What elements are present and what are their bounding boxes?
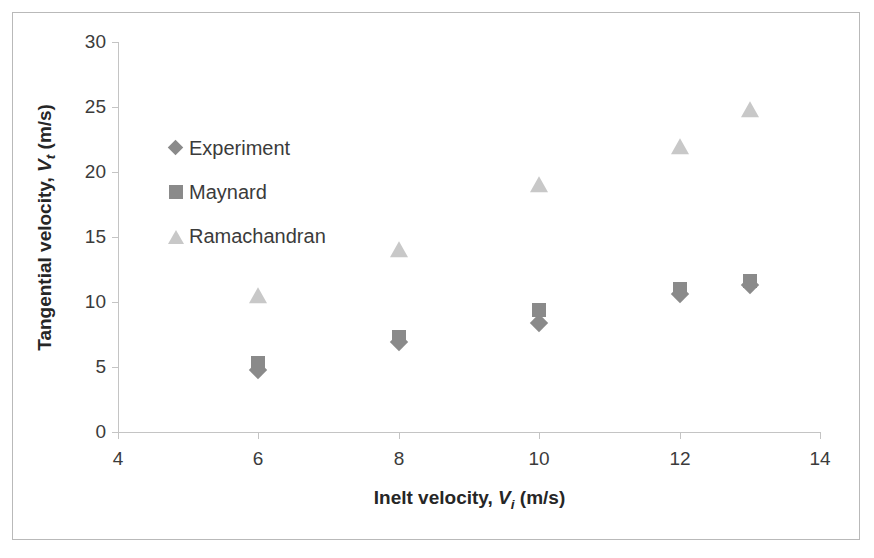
data-point-triangle [671,138,689,154]
y-axis-tick-label: 0 [60,422,106,441]
x-axis-tick [118,433,119,439]
y-axis-tick-label: 20 [60,162,106,181]
data-point-square [392,330,406,344]
x-axis-tick-label: 12 [657,449,703,468]
x-axis-tick-label: 10 [516,449,562,468]
data-point-square [673,282,687,296]
y-axis-title: Tangential velocity, Vt (m/s) [34,37,59,417]
y-axis-tick-label: 30 [60,32,106,51]
x-axis-line [118,432,821,433]
legend-label: Maynard [189,181,267,204]
diamond-icon [168,140,184,156]
y-axis-tick-label: 10 [60,292,106,311]
x-axis-tick-label: 6 [235,449,281,468]
data-point-square [251,356,265,370]
x-axis-tick [680,433,681,439]
data-point-diamond [390,333,408,351]
data-point-diamond [530,314,548,332]
chart-legend: ExperimentMaynardRamachandran [168,126,418,258]
y-axis-tick-label: 5 [60,357,106,376]
legend-item-experiment[interactable]: Experiment [168,126,418,170]
y-axis-tick-label: 15 [60,227,106,246]
x-axis-tick [820,433,821,439]
data-point-square [743,274,757,288]
data-point-triangle [249,287,267,303]
data-point-diamond [741,276,759,294]
legend-label: Ramachandran [189,225,326,248]
data-point-diamond [249,360,267,378]
data-point-square [532,303,546,317]
legend-item-maynard[interactable]: Maynard [168,170,418,214]
x-axis-tick-label: 8 [376,449,422,468]
legend-label: Experiment [189,137,290,160]
x-axis-tick-label: 14 [797,449,843,468]
x-axis-tick [258,433,259,439]
data-point-triangle [530,176,548,192]
data-point-diamond [670,285,688,303]
square-icon [168,184,184,200]
x-axis-tick [399,433,400,439]
y-axis-tick-label: 25 [60,97,106,116]
triangle-icon [168,228,184,244]
x-axis-tick-label: 4 [95,449,141,468]
scatter-chart: 051015202530 468101214 Tangential veloci… [0,0,874,558]
data-point-triangle [741,101,759,117]
x-axis-tick [539,433,540,439]
legend-item-ramachandran[interactable]: Ramachandran [168,214,418,258]
x-axis-title: Inelt velocity, Vi (m/s) [118,487,821,512]
